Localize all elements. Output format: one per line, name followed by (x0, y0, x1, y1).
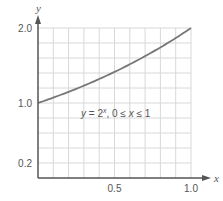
y-axis-arrow-icon (35, 15, 41, 24)
axes (35, 15, 211, 181)
chart: 0.21.02.00.51.0 y x y = 2x, 0 ≤ x ≤ 1 (0, 0, 223, 201)
y-tick-label: 1.0 (18, 98, 32, 109)
y-axis-name: y (35, 2, 41, 14)
annotation-domain-post: ≤ 1 (134, 108, 151, 119)
y-tick-label: 2.0 (18, 23, 32, 34)
annotation-eq: = 2 (86, 108, 103, 119)
x-axis-name: x (213, 172, 219, 184)
x-tick-label: 0.5 (108, 183, 122, 194)
y-tick-label: 0.2 (18, 158, 32, 169)
curve-annotation: y = 2x, 0 ≤ x ≤ 1 (80, 107, 151, 119)
x-tick-label: 1.0 (184, 183, 198, 194)
annotation-domain-pre: , 0 ≤ (106, 108, 128, 119)
x-axis-arrow-icon (202, 175, 211, 181)
grid-lines (38, 28, 191, 178)
